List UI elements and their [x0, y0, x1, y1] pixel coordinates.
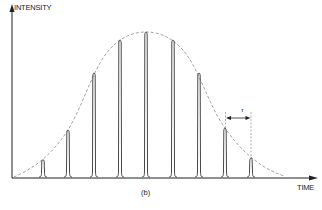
- pulse-3: [90, 73, 98, 177]
- pulse-1: [39, 160, 47, 177]
- gaussian-envelope: [14, 32, 284, 177]
- diagram-canvas: [0, 0, 322, 210]
- pulse-5: [142, 32, 150, 177]
- pulse-6: [169, 40, 177, 177]
- figure-caption: (b): [141, 188, 150, 197]
- x-axis-arrow-icon: [309, 176, 318, 181]
- pulse-train-diagram: INTENSITY TIME (b) τ: [0, 0, 322, 210]
- period-arrow-right-icon: [246, 116, 251, 120]
- pulse-4: [116, 40, 124, 177]
- pulse-train: [39, 32, 255, 177]
- pulse-2: [64, 130, 72, 177]
- period-marker: [226, 112, 252, 158]
- pulse-9: [247, 158, 255, 177]
- period-arrow-left-icon: [226, 116, 231, 120]
- pulse-8: [221, 128, 229, 177]
- y-axis-label: INTENSITY: [14, 3, 51, 12]
- x-axis-label: TIME: [297, 183, 314, 192]
- pulse-7: [195, 73, 203, 177]
- period-label: τ: [241, 106, 244, 114]
